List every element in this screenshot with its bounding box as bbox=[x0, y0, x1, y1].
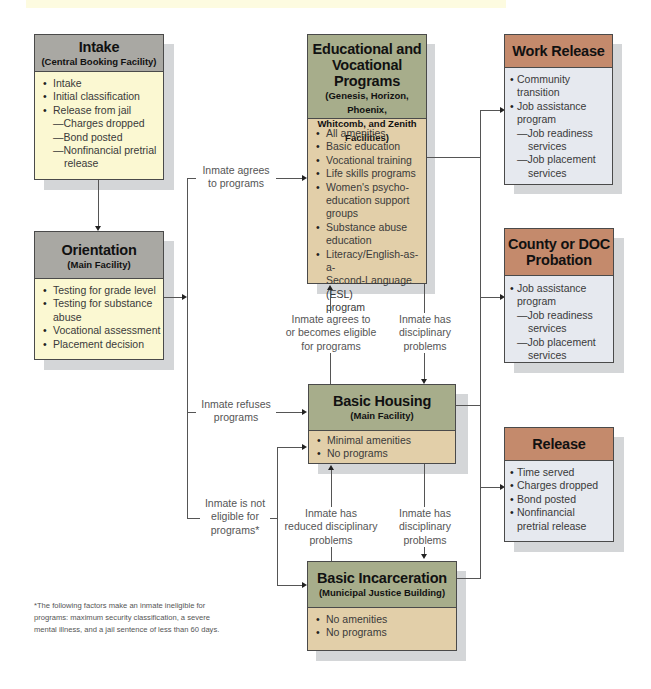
label-refuses: Inmate refuses programs bbox=[196, 398, 276, 425]
educational-item: Vocational training bbox=[316, 154, 426, 167]
arrow-right-icon bbox=[302, 409, 307, 415]
top-banner bbox=[26, 0, 506, 8]
incarceration-to-bus-line bbox=[457, 578, 480, 579]
intake-header: Intake (Central Booking Facility) bbox=[35, 35, 163, 72]
incarceration-item: No programs bbox=[316, 626, 456, 639]
intake-item: Intake bbox=[43, 77, 163, 90]
educational-item-cont: education support groups bbox=[316, 194, 426, 221]
housing-body: Minimal amenities No programs bbox=[309, 431, 455, 463]
educational-body: All amenities Basic education Vocational… bbox=[308, 119, 426, 283]
educational-item: Life skills programs bbox=[316, 167, 426, 180]
housing-header: Basic Housing (Main Facility) bbox=[309, 385, 455, 431]
educational-title: Vocational Programs bbox=[308, 57, 426, 89]
to-probation-line bbox=[480, 297, 500, 298]
label-disciplinary-1: Inmate has disciplinary problems bbox=[395, 313, 455, 353]
work-release-item: Community bbox=[510, 73, 612, 86]
educational-item: Women's psycho- bbox=[316, 181, 426, 194]
intake-item: Release from jail bbox=[43, 104, 163, 117]
probation-header: County or DOC Probation bbox=[505, 229, 613, 276]
orientation-item: Placement decision bbox=[43, 338, 163, 351]
work-release-item-cont: transition bbox=[510, 86, 612, 99]
work-release-body: Community transition Job assistance prog… bbox=[505, 68, 612, 184]
orientation-subtitle: (Main Facility) bbox=[35, 258, 163, 272]
work-release-item-cont: program bbox=[510, 113, 612, 126]
edu-to-bus-line bbox=[427, 157, 480, 158]
label-agrees-or-eligible: Inmate agrees to or becomes eligible for… bbox=[283, 313, 379, 353]
orientation-item: Testing for grade level bbox=[43, 284, 163, 297]
incarceration-title: Basic Incarceration bbox=[308, 570, 456, 586]
label-agrees: Inmate agrees to programs bbox=[196, 164, 276, 191]
orientation-box: Orientation (Main Facility) Testing for … bbox=[34, 231, 164, 360]
basic-housing-box: Basic Housing (Main Facility) Minimal am… bbox=[308, 384, 456, 464]
orientation-item: Testing for substance bbox=[43, 297, 163, 310]
housing-title: Basic Housing bbox=[309, 393, 455, 409]
intake-subitem: —Bond posted bbox=[43, 131, 163, 144]
left-bus-line-full bbox=[187, 178, 188, 518]
intake-title: Intake bbox=[35, 39, 163, 55]
work-release-subitem-cont: services bbox=[510, 140, 612, 153]
label-not-eligible: Inmate is not eligible for programs* bbox=[200, 497, 270, 537]
arrow-right-icon bbox=[302, 444, 307, 450]
incarceration-item: No amenities bbox=[316, 613, 456, 626]
release-item: Charges dropped bbox=[510, 479, 613, 492]
orientation-to-bus-line bbox=[164, 297, 182, 298]
to-housing-line bbox=[277, 447, 302, 448]
right-bus-line bbox=[480, 110, 481, 579]
release-header: Release bbox=[505, 428, 613, 461]
educational-box: Educational and Vocational Programs (Gen… bbox=[307, 34, 427, 284]
educational-subtitle: (Genesis, Horizon, Phoenix, bbox=[308, 89, 426, 117]
label-reduced: Inmate has reduced disciplinary problems bbox=[281, 507, 381, 547]
intake-subitem: release bbox=[43, 157, 163, 170]
arrow-down-icon bbox=[421, 554, 427, 559]
orientation-body: Testing for grade level Testing for subs… bbox=[35, 279, 163, 359]
probation-item: Job assistance bbox=[510, 282, 613, 295]
to-release-line bbox=[480, 487, 500, 488]
probation-subitem: —Job placement bbox=[510, 336, 613, 349]
work-release-subitem: —Job readiness bbox=[510, 127, 612, 140]
orientation-title: Orientation bbox=[35, 242, 163, 258]
work-release-header: Work Release bbox=[505, 35, 612, 68]
to-work-release-line bbox=[480, 110, 500, 111]
educational-title: Educational and bbox=[308, 41, 426, 57]
educational-item: Basic education bbox=[316, 140, 426, 153]
probation-subitem: —Job readiness bbox=[510, 309, 613, 322]
intake-body: Intake Initial classification Release fr… bbox=[35, 72, 163, 179]
arrow-up-icon bbox=[327, 285, 333, 290]
educational-item: Substance abuse bbox=[316, 221, 426, 234]
probation-box: County or DOC Probation Job assistance p… bbox=[504, 228, 614, 363]
work-release-title: Work Release bbox=[505, 43, 612, 59]
arrow-up-icon bbox=[328, 465, 334, 470]
release-body: Time served Charges dropped Bond posted … bbox=[505, 461, 613, 541]
release-item: Time served bbox=[510, 466, 613, 479]
probation-body: Job assistance program —Job readiness se… bbox=[505, 276, 613, 362]
intake-to-orientation-line bbox=[98, 180, 99, 228]
work-release-box: Work Release Community transition Job as… bbox=[504, 34, 613, 185]
basic-incarceration-box: Basic Incarceration (Municipal Justice B… bbox=[307, 561, 457, 651]
probation-subitem-cont: services bbox=[510, 322, 613, 335]
not-eligible-split-line bbox=[277, 447, 278, 585]
probation-title: County or DOC bbox=[505, 236, 613, 252]
release-item: Bond posted bbox=[510, 493, 613, 506]
incarceration-subtitle: (Municipal Justice Building) bbox=[308, 586, 456, 600]
educational-item: All amenities bbox=[316, 127, 426, 140]
probation-title: Probation bbox=[505, 252, 613, 268]
intake-subitem: —Charges dropped bbox=[43, 117, 163, 130]
housing-item: Minimal amenities bbox=[317, 434, 455, 447]
incarceration-header: Basic Incarceration (Municipal Justice B… bbox=[308, 562, 456, 608]
release-title: Release bbox=[505, 436, 613, 452]
incarceration-body: No amenities No programs bbox=[308, 608, 456, 650]
label-disciplinary-2: Inmate has disciplinary problems bbox=[395, 507, 455, 547]
intake-item: Initial classification bbox=[43, 90, 163, 103]
to-incarceration-line bbox=[277, 585, 302, 586]
footnote: *The following factors make an inmate in… bbox=[34, 600, 234, 636]
housing-subtitle: (Main Facility) bbox=[309, 409, 455, 423]
educational-header: Educational and Vocational Programs (Gen… bbox=[308, 35, 426, 119]
housing-item: No programs bbox=[317, 447, 455, 460]
probation-item-cont: program bbox=[510, 295, 613, 308]
orientation-header: Orientation (Main Facility) bbox=[35, 232, 163, 279]
intake-subtitle: (Central Booking Facility) bbox=[35, 55, 163, 69]
intake-box: Intake (Central Booking Facility) Intake… bbox=[34, 34, 164, 180]
release-item: Nonfinancial bbox=[510, 506, 613, 519]
work-release-subitem-cont: services bbox=[510, 167, 612, 180]
educational-item: Literacy/English-as-a- bbox=[316, 248, 426, 275]
